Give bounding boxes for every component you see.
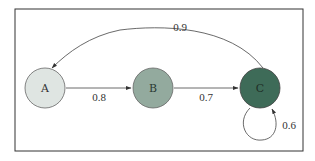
node-c: C xyxy=(240,68,280,108)
node-a: A xyxy=(25,68,65,108)
node-b-label: B xyxy=(149,82,157,95)
edge-label-c-c: 0.6 xyxy=(282,119,296,131)
node-b: B xyxy=(133,68,173,108)
edge-label-a-b: 0.8 xyxy=(92,91,106,103)
node-a-label: A xyxy=(40,82,50,95)
node-c-label: C xyxy=(256,82,264,95)
state-diagram: 0.8 0.7 0.9 0.6 A B C xyxy=(0,0,315,161)
edge-label-b-c: 0.7 xyxy=(199,91,213,103)
edge-label-c-a: 0.9 xyxy=(173,21,187,33)
